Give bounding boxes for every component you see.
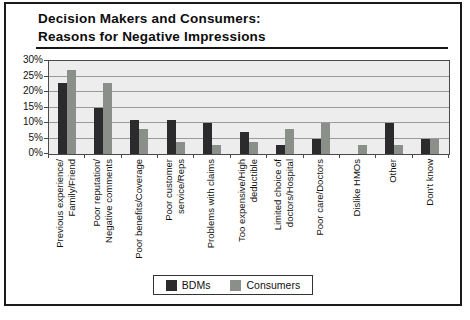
x-axis-label: Poor reputation/ Negative comments: [91, 159, 115, 271]
chart-title: Decision Makers and Consumers: Reasons f…: [38, 10, 266, 45]
bar-consumers-2: [139, 129, 148, 154]
x-axis-tick: [48, 154, 49, 158]
y-axis-tick: [44, 122, 48, 123]
bar-consumers-10: [430, 139, 439, 155]
bar-consumers-9: [394, 145, 403, 154]
x-axis-tick: [339, 154, 340, 158]
slide-frame: Decision Makers and Consumers: Reasons f…: [4, 2, 462, 306]
x-axis-tick: [84, 154, 85, 158]
plot-area: [48, 60, 450, 155]
bar-bdms-4: [203, 123, 212, 154]
x-axis-tick: [157, 154, 158, 158]
y-axis-tick: [44, 76, 48, 77]
chart-title-line1: Decision Makers and Consumers:: [38, 10, 266, 28]
y-axis-label: 0%: [7, 147, 43, 159]
x-axis-tick: [448, 154, 449, 158]
y-axis-tick: [44, 60, 48, 61]
title-underline: [36, 47, 448, 49]
x-axis-label: Poor benefits/Coverage: [133, 159, 146, 271]
x-axis-tick: [412, 154, 413, 158]
x-axis-label: Don't know: [424, 159, 437, 271]
legend-item-bdms: BDMs: [166, 279, 211, 291]
y-axis-label: 10%: [7, 116, 43, 128]
bar-consumers-5: [249, 142, 258, 154]
bar-bdms-3: [167, 120, 176, 154]
bar-bdms-6: [276, 145, 285, 154]
bar-bdms-10: [421, 139, 430, 155]
bar-bdms-5: [240, 132, 249, 154]
x-axis-label: Previous experience/ Family/Friend: [54, 159, 78, 271]
slide: { "title": { "line1": "Decision Makers a…: [0, 0, 470, 320]
bar-consumers-7: [321, 123, 330, 154]
bar-consumers-6: [285, 129, 294, 154]
x-axis-label: Too expensive/High deductible: [236, 159, 260, 271]
legend-box: BDMs Consumers: [153, 275, 313, 295]
x-axis-label: Poor customer service/Reps: [163, 159, 187, 271]
x-axis-tick: [121, 154, 122, 158]
x-axis-tick: [266, 154, 267, 158]
y-axis-label: 5%: [7, 132, 43, 144]
x-axis-label: Other: [387, 159, 400, 271]
bdms-swatch: [166, 280, 177, 291]
bar-consumers-0: [67, 70, 76, 154]
bar-bdms-0: [58, 83, 67, 154]
y-axis-tick: [44, 91, 48, 92]
x-axis-label: Poor care/Doctors: [314, 159, 327, 271]
consumers-swatch: [230, 280, 241, 291]
bar-bdms-9: [385, 123, 394, 154]
y-axis-label: 20%: [7, 85, 43, 97]
x-axis-tick: [193, 154, 194, 158]
bar-bdms-7: [312, 139, 321, 155]
x-axis-tick: [375, 154, 376, 158]
bar-consumers-1: [103, 83, 112, 154]
legend-label-bdms: BDMs: [182, 279, 211, 291]
legend-label-consumers: Consumers: [246, 279, 300, 291]
bar-consumers-8: [358, 145, 367, 154]
bar-consumers-4: [212, 145, 221, 154]
y-axis-label: 15%: [7, 101, 43, 113]
gridline: [49, 76, 449, 77]
bar-bdms-1: [94, 108, 103, 155]
legend: BDMs Consumers: [6, 275, 460, 295]
x-axis-label: Limited choice of doctors/Hospital: [272, 159, 296, 271]
x-axis-label: Problems with claims: [205, 159, 218, 271]
x-axis-label: Dislike HMOs: [351, 159, 364, 271]
y-axis-label: 25%: [7, 70, 43, 82]
x-axis-tick: [303, 154, 304, 158]
y-axis-tick: [44, 107, 48, 108]
y-axis-tick: [44, 138, 48, 139]
legend-item-consumers: Consumers: [230, 279, 300, 291]
bar-consumers-3: [176, 142, 185, 154]
bar-bdms-2: [130, 120, 139, 154]
y-axis-label: 30%: [7, 54, 43, 66]
x-axis-tick: [230, 154, 231, 158]
chart-title-line2: Reasons for Negative Impressions: [38, 28, 266, 46]
